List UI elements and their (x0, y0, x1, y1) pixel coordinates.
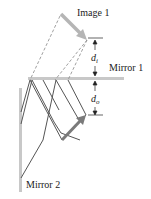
virtual-rays (30, 16, 87, 80)
real-rays (21, 80, 86, 178)
mirror-diagram (0, 0, 151, 199)
do-label: do (91, 94, 100, 106)
mirror-2-label: Mirror 2 (26, 180, 60, 190)
mirror-1-label: Mirror 1 (109, 63, 143, 73)
mirror-1 (28, 77, 124, 80)
image-1-label: Image 1 (77, 8, 110, 18)
object-arrow (62, 115, 86, 140)
di-label: di (91, 53, 98, 65)
